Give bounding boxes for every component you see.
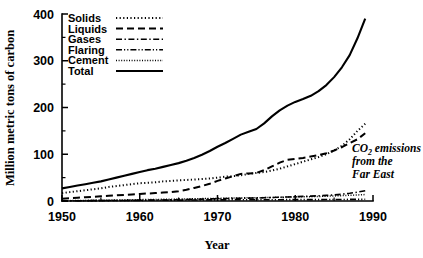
legend-label-total: Total bbox=[68, 65, 93, 77]
x-tick-label: 1980 bbox=[281, 210, 309, 224]
annotation-line-2: from the bbox=[352, 155, 393, 168]
y-tick-label: 200 bbox=[33, 101, 54, 115]
chart-figure: 0100200300400 19501960197019801990 Milli… bbox=[0, 0, 423, 258]
annotation-co2: CO bbox=[352, 142, 368, 154]
x-tick-label: 1960 bbox=[126, 210, 154, 224]
y-tick-label: 300 bbox=[33, 54, 54, 68]
x-tick-label: 1990 bbox=[359, 210, 387, 224]
y-tick-label: 400 bbox=[33, 8, 54, 22]
annotation-emissions: emissions bbox=[372, 142, 421, 154]
x-tick-label: 1950 bbox=[48, 210, 76, 224]
annotation-line-3: Far East bbox=[351, 168, 395, 180]
x-tick-label: 1970 bbox=[204, 210, 232, 224]
x-axis-title: Year bbox=[205, 238, 230, 252]
y-axis-title: Million metric tons of carbon bbox=[3, 30, 17, 186]
y-tick-label: 100 bbox=[33, 148, 54, 162]
co2-emissions-line-chart: 0100200300400 19501960197019801990 Milli… bbox=[0, 0, 423, 258]
y-tick-label: 0 bbox=[47, 195, 54, 209]
